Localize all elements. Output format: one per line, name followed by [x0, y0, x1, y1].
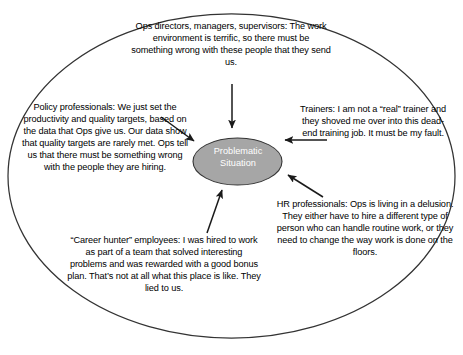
- center-node-label-line2: Situation: [193, 158, 283, 170]
- note-ops-directors: Ops directors, managers, supervisors: Th…: [131, 20, 331, 68]
- diagram-canvas: Problematic Situation Ops directors, man…: [0, 0, 463, 355]
- note-policy-professionals: Policy professionals: We just set the pr…: [19, 101, 191, 174]
- note-career-hunter-employees: “Career hunter” employees: I was hired t…: [66, 234, 262, 294]
- note-trainers: Trainers: I am not a “real” trainer and …: [297, 103, 449, 139]
- center-node-label: Problematic Situation: [193, 146, 283, 169]
- center-node-label-line1: Problematic: [193, 146, 283, 158]
- note-hr-professionals: HR professionals: Ops is living in a del…: [274, 198, 456, 258]
